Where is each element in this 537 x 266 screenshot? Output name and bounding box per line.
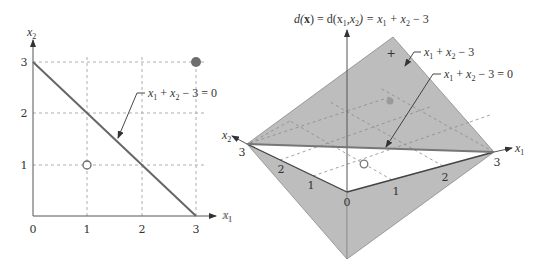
ghost-x1-label: x1 [221, 208, 231, 224]
left-plot: x2 x1 0 1 2 3 1 2 3 x1 + x2 − 3 = 0 [21, 25, 233, 236]
x-tick-0: 0 [30, 223, 37, 236]
positive-sign: + [386, 47, 395, 60]
annotation-arrow [118, 93, 145, 138]
x1-axis-arrow [494, 148, 512, 152]
right-plot: x1 x2 0 1 2 3 1 2 3 + d(x) = d(x1,x2) = … [221, 12, 524, 259]
x2-tick-1: 1 [308, 179, 315, 192]
y-tick-2: 2 [21, 107, 28, 120]
open-point-3d [360, 160, 368, 168]
y-tick-1: 1 [21, 159, 28, 172]
x2-tick-3: 3 [239, 146, 246, 159]
x1-tick-1: 1 [393, 185, 400, 198]
x1-tick-2: 2 [442, 171, 449, 184]
x1-axis-label: x1 [514, 141, 524, 157]
x-tick-2: 2 [139, 223, 146, 236]
x2-axis-arrow [232, 136, 247, 144]
filled-point-3d [387, 98, 394, 105]
function-title: d(x) = d(x1,x2) = x1 + x2 − 3 [294, 12, 429, 28]
grid3-line [470, 115, 490, 122]
x-tick-3: 3 [193, 223, 200, 236]
plane-equation-label: x1 + x2 − 3 [423, 45, 474, 61]
open-point [83, 161, 91, 169]
figure: x2 x1 0 1 2 3 1 2 3 x1 + x2 − 3 = 0 [0, 0, 537, 266]
y-axis-label: x2 [26, 25, 36, 41]
boundary-equation-label: x1 + x2 − 3 = 0 [147, 86, 217, 102]
origin-label: 0 [344, 196, 351, 209]
filled-point [191, 57, 201, 67]
x2-axis-label: x2 [221, 128, 231, 144]
x1-tick-3: 3 [494, 156, 501, 169]
y-tick-3: 3 [21, 56, 28, 69]
x-tick-1: 1 [84, 223, 91, 236]
x2-tick-2: 2 [278, 163, 285, 176]
line-equation-label: x1 + x2 − 3 = 0 [443, 67, 513, 83]
